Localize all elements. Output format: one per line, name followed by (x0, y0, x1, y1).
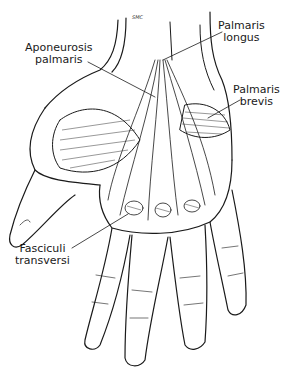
label-line: transversi (15, 255, 70, 267)
label-line: palmaris (25, 54, 92, 66)
label-palmaris-brevis: Palmaris brevis (233, 84, 280, 108)
leader-fasciculi (72, 214, 128, 248)
label-fasciculi-transversi: Fasciculi transversi (15, 243, 70, 267)
label-line: brevis (233, 96, 280, 108)
label-aponeurosis-palmaris: Aponeurosis palmaris (25, 42, 92, 66)
label-palmaris-longus: Palmaris longus (218, 20, 265, 44)
artist-signature: SMC (132, 14, 143, 20)
hand-anatomy-figure: SMC Aponeurosis palmaris Palmaris longus… (0, 0, 287, 378)
label-line: longus (218, 32, 265, 44)
leader-aponeurosis (88, 62, 155, 97)
